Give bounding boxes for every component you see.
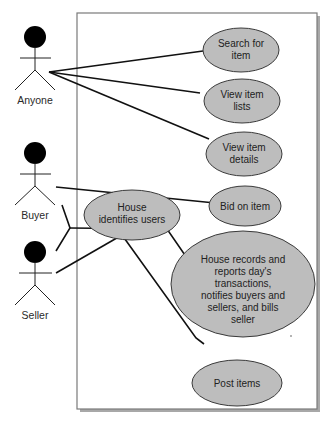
- actor-legs-icon: [15, 285, 55, 305]
- use-case-records: House records and reports day's transact…: [171, 231, 315, 337]
- stray-dot: [290, 335, 292, 337]
- use-case-label: sellers, and bills: [207, 302, 278, 313]
- use-case-bid: Bid on item: [209, 186, 281, 226]
- actor-head-icon: [24, 142, 46, 164]
- use-case-label: identifies users: [99, 214, 166, 225]
- use-case-label: item: [232, 50, 251, 61]
- use-case-post: Post items: [192, 360, 282, 406]
- use-case-label: transactions,: [215, 278, 272, 289]
- use-case-label: House: [118, 202, 147, 213]
- use-case-diagram: Search for item View item lists View ite…: [0, 0, 332, 425]
- actor-anyone: Anyone: [15, 26, 55, 106]
- use-case-identify: House identifies users: [84, 190, 180, 240]
- use-case-label: details: [230, 154, 259, 165]
- actor-buyer: Buyer: [15, 142, 55, 221]
- actor-label: Seller: [22, 309, 49, 321]
- actor-legs-icon: [15, 70, 55, 90]
- actor-seller: Seller: [15, 241, 55, 321]
- actor-generalization-fork: [56, 205, 70, 251]
- actor-legs-icon: [15, 186, 55, 205]
- actor-label: Anyone: [17, 94, 53, 106]
- use-case-view-lists: View item lists: [204, 79, 280, 123]
- use-case-label: View item: [220, 89, 263, 100]
- use-case-label: reports day's: [215, 266, 272, 277]
- use-case-label: Post items: [214, 378, 261, 389]
- use-case-label: Search for: [218, 38, 265, 49]
- use-case-label: lists: [233, 101, 250, 112]
- use-case-search: Search for item: [203, 28, 279, 72]
- use-case-label: Bid on item: [220, 201, 270, 212]
- use-case-label: View item: [222, 142, 265, 153]
- use-case-label: House records and: [201, 254, 286, 265]
- actor-label: Buyer: [21, 209, 49, 221]
- use-case-view-details: View item details: [206, 132, 282, 176]
- use-case-label: seller: [231, 314, 256, 325]
- actor-head-icon: [24, 26, 46, 48]
- actor-head-icon: [24, 241, 46, 263]
- use-case-label: notifies buyers and: [201, 290, 285, 301]
